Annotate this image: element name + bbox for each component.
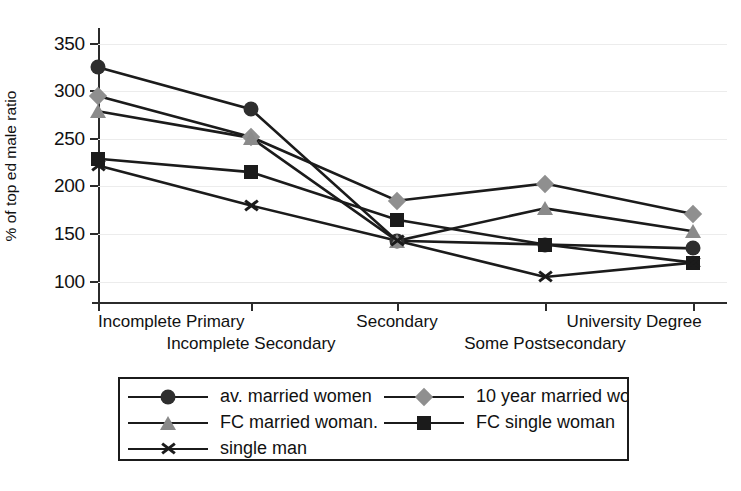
circle-marker-icon (244, 102, 259, 117)
line-chart: % of top ed male ratio 10015020025030035… (0, 0, 741, 491)
triangle-marker-icon (537, 201, 553, 215)
legend-label: FC single woman (476, 412, 615, 433)
cross-marker-icon (538, 269, 553, 284)
legend-item[interactable]: FC single woman (382, 410, 615, 435)
legend-swatch (382, 386, 466, 408)
cross-marker-icon (686, 255, 701, 270)
legend-label: av. married women (220, 386, 372, 407)
square-marker-icon (244, 165, 258, 179)
y-tick-mark (90, 233, 98, 235)
y-tick-label-300: 300 (54, 80, 85, 102)
y-tick-mark (90, 185, 98, 187)
circle-marker-icon (686, 241, 701, 256)
legend-label: FC married woman. (220, 412, 378, 433)
legend-item[interactable]: FC married woman. (126, 410, 378, 435)
x-axis-label-some-postsecondary: Some Postsecondary (464, 334, 626, 354)
y-tick-label-250: 250 (54, 128, 85, 150)
legend-label: 10 year married woman (476, 386, 629, 407)
y-tick-label-100: 100 (54, 271, 85, 293)
x-axis-label-incomplete-primary: Incomplete Primary (98, 312, 244, 332)
x-axis-line (92, 302, 727, 304)
legend-swatch (126, 412, 210, 434)
x-tick-mark (545, 302, 547, 311)
triangle-marker-icon (685, 224, 701, 238)
triangle-marker-icon (243, 131, 259, 145)
legend: av. married women10 year married womanFC… (118, 377, 629, 461)
legend-item[interactable]: single man (126, 436, 307, 461)
x-tick-mark (98, 302, 100, 311)
legend-label: single man (220, 438, 307, 459)
y-tick-label-200: 200 (54, 175, 85, 197)
triangle-marker-icon (160, 416, 176, 430)
circle-marker-icon (161, 389, 176, 404)
diamond-marker-icon (415, 387, 433, 405)
circle-marker-icon (91, 60, 106, 75)
x-tick-mark (251, 302, 253, 311)
y-tick-mark (90, 43, 98, 45)
triangle-marker-icon (90, 104, 106, 118)
plot-area: 100150200250300350 (98, 34, 727, 296)
square-marker-icon (538, 238, 552, 252)
square-marker-icon (417, 416, 431, 430)
legend-swatch (126, 386, 210, 408)
x-axis-label-university-degree: University Degree (567, 312, 702, 332)
x-tick-mark (693, 302, 695, 311)
x-axis-label-secondary: Secondary (356, 312, 437, 332)
legend-item[interactable]: av. married women (126, 384, 372, 409)
cross-marker-icon (390, 233, 405, 248)
y-tick-label-350: 350 (54, 33, 85, 55)
cross-marker-icon (91, 158, 106, 173)
square-marker-icon (390, 213, 404, 227)
y-axis-title: % of top ed male ratio (2, 91, 20, 242)
x-tick-mark (397, 302, 399, 311)
legend-swatch (126, 438, 210, 460)
legend-item[interactable]: 10 year married woman (382, 384, 629, 409)
series-lines (98, 34, 727, 296)
x-axis-label-incomplete-secondary: Incomplete Secondary (166, 334, 335, 354)
legend-swatch (382, 412, 466, 434)
y-tick-label-150: 150 (54, 223, 85, 245)
y-tick-mark (90, 138, 98, 140)
cross-marker-icon (244, 198, 259, 213)
y-tick-mark (90, 281, 98, 283)
cross-marker-icon (161, 441, 176, 456)
